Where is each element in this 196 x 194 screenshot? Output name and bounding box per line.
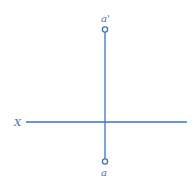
reference-line-label: X (13, 117, 22, 128)
point-top-view-marker (102, 159, 107, 164)
point-front-view-label: a' (101, 13, 110, 24)
point-top-view-label: a (101, 167, 107, 178)
projection-diagram: X a' a (0, 0, 196, 194)
point-front-view-marker (102, 27, 107, 32)
